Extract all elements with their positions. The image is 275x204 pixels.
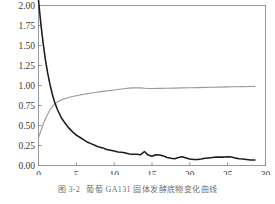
x-tick-label: 20 <box>185 170 195 175</box>
figure-caption-text: 葡萄 GA131 固体发酵底物变化曲线 <box>86 185 217 194</box>
y-tick-label: 1.50 <box>18 41 35 51</box>
y-tick-label: 0.25 <box>18 141 35 151</box>
y-tick-label: 0.50 <box>18 121 35 131</box>
y-tick-label: 0.75 <box>18 101 35 111</box>
y-tick-label: 2.00 <box>18 1 35 11</box>
x-tick-label: 0 <box>36 170 41 175</box>
figure-caption: 图 3-2葡萄 GA131 固体发酵底物变化曲线 <box>0 184 275 195</box>
chart-plot-area: 0.000.250.500.751.001.251.501.752.00 051… <box>0 0 275 175</box>
y-tick-label: 1.25 <box>18 61 35 71</box>
y-tick-label: 1.00 <box>18 81 35 91</box>
x-tick-label: 15 <box>147 170 157 175</box>
figure-caption-number: 图 3-2 <box>58 185 81 194</box>
y-tick-label: 1.75 <box>18 21 35 31</box>
figure-container: 0.000.250.500.751.001.251.501.752.00 051… <box>0 0 275 204</box>
x-tick-label: 25 <box>223 170 233 175</box>
x-tick-label: 30 <box>261 170 271 175</box>
x-tick-label: 10 <box>109 170 119 175</box>
y-axis-tick-labels: 0.000.250.500.751.001.251.501.752.00 <box>18 1 35 171</box>
y-tick-label: 0.00 <box>18 161 35 171</box>
x-tick-label: 5 <box>74 170 79 175</box>
line-chart: 0.000.250.500.751.001.251.501.752.00 051… <box>0 0 275 175</box>
